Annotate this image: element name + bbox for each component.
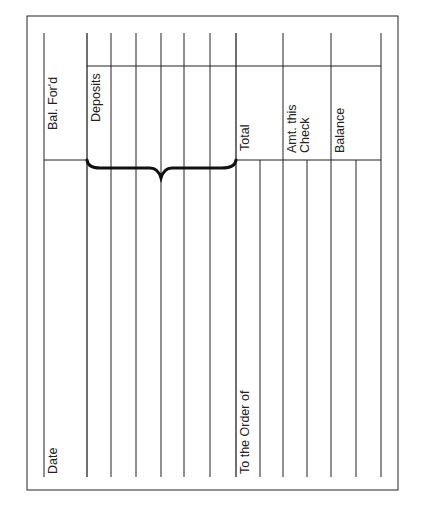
outer-frame xyxy=(27,16,398,490)
check-register-form: Bal. For'd Deposits Total Amt. this Chec… xyxy=(0,0,422,510)
form-grid xyxy=(0,0,422,510)
deposits-label: Deposits xyxy=(90,73,103,122)
total-label: Total xyxy=(239,125,252,151)
amt-this-check-label-line2: Check xyxy=(299,118,312,153)
bal-ford-label: Bal. For'd xyxy=(47,77,60,130)
balance-label: Balance xyxy=(334,108,347,153)
date-label: Date xyxy=(47,448,60,474)
to-the-order-of-label: To the Order of xyxy=(239,391,252,474)
